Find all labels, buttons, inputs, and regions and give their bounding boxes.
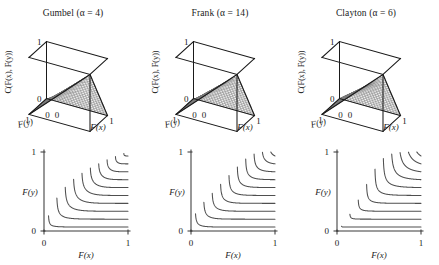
- z-tick-0: 0: [330, 94, 335, 104]
- panel-column-frank: Frank (α = 14)101001C(F(x), F(y))F(y)F(x…: [147, 0, 293, 265]
- x-tick-0: 0: [348, 110, 353, 120]
- contour-level-6: [90, 168, 128, 187]
- contour-panel-clayton: 1001F(y)F(x): [293, 142, 439, 265]
- surface-z-axis-label: C(F(x), F(y)): [4, 50, 13, 93]
- panel-column-gumbel: Gumbel (α = 4)101001C(F(x), F(y))F(y)F(x…: [0, 0, 146, 265]
- surface-panel-gumbel: 101001C(F(x), F(y))F(y)F(x): [0, 26, 146, 134]
- contour-y-axis-label: F(y): [168, 187, 185, 197]
- surface-y-axis-label: F(y): [163, 116, 181, 130]
- copula-figure: Gumbel (α = 4)101001C(F(x), F(y))F(y)F(x…: [0, 0, 439, 265]
- surface-y-axis-label: F(y): [16, 116, 34, 130]
- panel-title-gumbel: Gumbel (α = 4): [0, 8, 146, 18]
- contour-lines: [342, 152, 421, 227]
- contour-level-6: [237, 167, 275, 188]
- contour-y-tick-0: 0: [179, 226, 184, 236]
- contour-level-9: [115, 156, 128, 163]
- surface-plot-frank: 101001C(F(x), F(y))F(y)F(x): [147, 26, 293, 134]
- surface-panel-frank: 101001C(F(x), F(y))F(y)F(x): [147, 26, 293, 134]
- contour-level-3: [358, 200, 421, 211]
- contour-level-5: [229, 176, 275, 196]
- contour-x-tick-0: 0: [189, 238, 194, 248]
- contour-x-axis-label: F(x): [370, 250, 387, 260]
- surface-z-axis-label: C(F(x), F(y)): [151, 50, 160, 93]
- contour-panel-gumbel: 1001F(y)F(x): [0, 142, 146, 265]
- contour-x-tick-0: 0: [335, 238, 340, 248]
- contour-lines: [49, 153, 128, 227]
- contour-x-tick-1: 1: [419, 238, 424, 248]
- contour-plot-gumbel: 1001F(y)F(x): [0, 142, 146, 265]
- contour-level-9: [262, 152, 275, 163]
- contour-x-tick-0: 0: [42, 238, 47, 248]
- panel-column-clayton: Clayton (α = 6)101001C(F(x), F(y))F(y)F(…: [293, 0, 439, 265]
- contour-y-tick-1: 1: [325, 147, 330, 157]
- contour-level-10: [271, 152, 275, 156]
- contour-y-tick-0: 0: [325, 226, 330, 236]
- contour-y-tick-1: 1: [32, 147, 37, 157]
- surface-x-axis-label: F(x): [236, 122, 253, 132]
- contour-y-tick-0: 0: [32, 226, 37, 236]
- z-tick-0: 0: [184, 94, 189, 104]
- z-tick-0: 0: [37, 94, 42, 104]
- y-tick-0: 0: [338, 110, 343, 120]
- contour-y-axis-label: F(y): [21, 187, 38, 197]
- x-tick-1: 1: [109, 116, 114, 126]
- contour-x-axis-label: F(x): [224, 250, 241, 260]
- x-tick-1: 1: [402, 116, 407, 126]
- contour-level-5: [82, 173, 128, 195]
- contour-level-5: [375, 169, 421, 195]
- contour-plot-clayton: 1001F(y)F(x): [293, 142, 439, 265]
- surface-z-axis-label: C(F(x), F(y)): [297, 50, 306, 93]
- x-tick-0: 0: [202, 110, 207, 120]
- x-tick-1: 1: [256, 116, 261, 126]
- contour-axes: [334, 150, 424, 235]
- panel-title-clayton: Clayton (α = 6): [293, 8, 439, 18]
- y-tick-0: 0: [45, 110, 50, 120]
- surface-plot-clayton: 101001C(F(x), F(y))F(y)F(x): [293, 26, 439, 134]
- y-tick-0: 0: [192, 110, 197, 120]
- surface-x-axis-label: F(x): [89, 122, 106, 132]
- surface-x-axis-label: F(x): [382, 122, 399, 132]
- surface-plot-gumbel: 101001C(F(x), F(y))F(y)F(x): [0, 26, 146, 134]
- z-tick-1: 1: [330, 37, 335, 47]
- contour-panel-frank: 1001F(y)F(x): [147, 142, 293, 265]
- contour-x-tick-1: 1: [273, 238, 278, 248]
- contour-y-tick-1: 1: [179, 147, 184, 157]
- z-tick-1: 1: [37, 37, 42, 47]
- contour-level-6: [383, 159, 421, 188]
- surface-panel-clayton: 101001C(F(x), F(y))F(y)F(x): [293, 26, 439, 134]
- contour-axes: [41, 150, 131, 235]
- z-tick-1: 1: [184, 37, 189, 47]
- contour-x-axis-label: F(x): [77, 250, 94, 260]
- contour-x-tick-1: 1: [126, 238, 131, 248]
- contour-y-axis-label: F(y): [314, 187, 331, 197]
- contour-level-4: [74, 179, 128, 203]
- contour-level-2: [350, 214, 421, 219]
- contour-lines: [196, 152, 275, 227]
- x-tick-0: 0: [55, 110, 60, 120]
- panel-title-frank: Frank (α = 14): [147, 8, 293, 18]
- contour-level-1: [342, 226, 421, 227]
- contour-level-1: [49, 216, 128, 227]
- contour-axes: [188, 150, 278, 235]
- surface-y-axis-label: F(y): [309, 116, 327, 130]
- contour-level-10: [124, 153, 128, 156]
- contour-plot-frank: 1001F(y)F(x): [147, 142, 293, 265]
- contour-level-10: [417, 152, 421, 156]
